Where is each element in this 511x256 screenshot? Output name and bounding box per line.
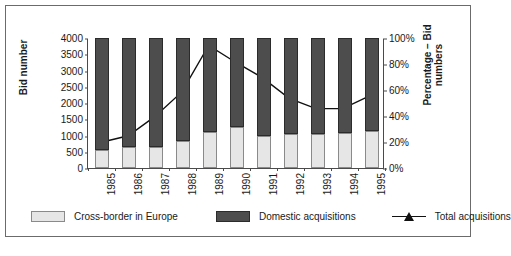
- x-axis-tick-label-1988: 1988: [188, 173, 198, 195]
- legend-swatch-domestic: [216, 211, 250, 222]
- bar-group[interactable]: [230, 38, 244, 168]
- y-axis-left-tick-mark: [85, 39, 88, 40]
- chart-figure-frame: Bid number Percentage – Bid numbers 0500…: [5, 5, 471, 237]
- y-axis-right-tick-label: 40%: [389, 112, 409, 122]
- y-axis-left-tick-label: 2000: [49, 99, 83, 109]
- x-axis-tick-mark: [142, 168, 143, 171]
- bar-group[interactable]: [257, 38, 271, 168]
- x-axis-tick-mark: [358, 168, 359, 171]
- x-axis-tick-label-1993: 1993: [323, 173, 333, 195]
- bar-group[interactable]: [311, 38, 325, 168]
- y-axis-left-tick-mark: [85, 120, 88, 121]
- legend-item[interactable]: Domestic acquisitions: [216, 211, 356, 222]
- bar-segment-domestic[interactable]: [95, 38, 109, 150]
- x-axis-tick-label-1991: 1991: [269, 173, 279, 195]
- y-axis-right-tick-label: 20%: [389, 138, 409, 148]
- legend-swatch-crossborder: [31, 211, 65, 222]
- bar-segment-domestic[interactable]: [311, 38, 325, 134]
- y-axis-left-tick-mark: [85, 104, 88, 105]
- y-axis-right-tick-label: 60%: [389, 86, 409, 96]
- y-axis-left-tick-mark: [85, 87, 88, 88]
- x-axis-tick-mark: [88, 168, 89, 171]
- y-axis-right-tick-mark: [383, 39, 387, 40]
- x-axis-tick-label-1986: 1986: [134, 173, 144, 195]
- x-axis-tick-mark: [223, 168, 224, 171]
- y-axis-left-tick-label: 0: [49, 164, 83, 174]
- bar-segment-crossborder[interactable]: [203, 132, 217, 168]
- y-axis-right-tick-mark: [383, 143, 387, 144]
- bar-segment-crossborder[interactable]: [122, 147, 136, 168]
- bar-group[interactable]: [149, 38, 163, 168]
- y-axis-left-tick-mark: [85, 55, 88, 56]
- y-axis-left-tick-label: 1000: [49, 132, 83, 142]
- bar-group[interactable]: [203, 38, 217, 168]
- x-axis-tick-label-1994: 1994: [350, 173, 360, 195]
- bar-segment-domestic[interactable]: [149, 38, 163, 147]
- x-axis-tick-label-1995: 1995: [377, 173, 387, 195]
- x-axis-tick-mark: [115, 168, 116, 171]
- x-axis-tick-mark: [250, 168, 251, 171]
- legend-swatch-total-line: [392, 211, 426, 222]
- bar-group[interactable]: [338, 38, 352, 168]
- legend-label: Domestic acquisitions: [259, 211, 356, 222]
- plot-inner: 050010001500200025003000350040000%20%40%…: [88, 39, 383, 168]
- bar-segment-crossborder[interactable]: [230, 127, 244, 168]
- bar-group[interactable]: [122, 38, 136, 168]
- bar-segment-domestic[interactable]: [176, 38, 190, 141]
- bar-segment-crossborder[interactable]: [95, 150, 109, 168]
- bar-segment-crossborder[interactable]: [338, 133, 352, 168]
- x-axis-tick-label-1989: 1989: [215, 173, 225, 195]
- bar-segment-domestic[interactable]: [122, 38, 136, 147]
- legend-item[interactable]: Total acquisitions: [392, 211, 511, 222]
- y-axis-left-tick-label: 1500: [49, 115, 83, 125]
- bar-segment-domestic[interactable]: [365, 38, 379, 131]
- bar-group[interactable]: [284, 38, 298, 168]
- bar-segment-domestic[interactable]: [230, 38, 244, 127]
- y-axis-left-tick-label: 3500: [49, 50, 83, 60]
- x-axis-tick-label-1990: 1990: [242, 173, 252, 195]
- y-axis-right-tick-label: 0%: [389, 164, 403, 174]
- legend-label: Total acquisitions: [435, 211, 511, 222]
- x-axis-tick-mark: [331, 168, 332, 171]
- bar-segment-crossborder[interactable]: [311, 134, 325, 168]
- y-axis-left-tick-label: 3000: [49, 67, 83, 77]
- x-axis-tick-mark: [169, 168, 170, 171]
- bar-segment-domestic[interactable]: [203, 38, 217, 132]
- plot-area: 050010001500200025003000350040000%20%40%…: [87, 39, 384, 169]
- bar-segment-domestic[interactable]: [338, 38, 352, 133]
- y-axis-left-tick-mark: [85, 71, 88, 72]
- x-axis-tick-label-1985: 1985: [107, 173, 117, 195]
- bar-segment-domestic[interactable]: [257, 38, 271, 136]
- bar-segment-crossborder[interactable]: [365, 131, 379, 168]
- y-axis-right-title: Percentage – Bid numbers: [422, 10, 444, 120]
- y-axis-right-tick-label: 80%: [389, 60, 409, 70]
- y-axis-left-tick-label: 2500: [49, 83, 83, 93]
- chart-legend: Cross-border in EuropeDomestic acquisiti…: [14, 202, 464, 230]
- x-axis-tick-label-1987: 1987: [161, 173, 171, 195]
- bar-group[interactable]: [365, 38, 379, 168]
- bar-group[interactable]: [95, 38, 109, 168]
- y-axis-right-tick-mark: [383, 65, 387, 66]
- legend-label: Cross-border in Europe: [74, 211, 178, 222]
- y-axis-right-tick-mark: [383, 117, 387, 118]
- legend-item[interactable]: Cross-border in Europe: [31, 211, 178, 222]
- y-axis-left-title: Bid number: [18, 18, 29, 118]
- y-axis-left-tick-mark: [85, 152, 88, 153]
- x-axis-tick-mark: [196, 168, 197, 171]
- x-axis-tick-label-1992: 1992: [296, 173, 306, 195]
- x-axis-tick-mark: [304, 168, 305, 171]
- x-axis-tick-mark: [385, 168, 386, 171]
- y-axis-left-tick-label: 4000: [49, 34, 83, 44]
- y-axis-left-tick-mark: [85, 136, 88, 137]
- bar-segment-crossborder[interactable]: [284, 134, 298, 168]
- bar-segment-domestic[interactable]: [284, 38, 298, 134]
- x-axis-tick-mark: [277, 168, 278, 171]
- bar-segment-crossborder[interactable]: [149, 147, 163, 168]
- bar-group[interactable]: [176, 38, 190, 168]
- y-axis-right-tick-label: 100%: [389, 34, 415, 44]
- y-axis-left-tick-label: 500: [49, 148, 83, 158]
- bar-segment-crossborder[interactable]: [176, 141, 190, 168]
- bar-segment-crossborder[interactable]: [257, 136, 271, 168]
- y-axis-right-tick-mark: [383, 91, 387, 92]
